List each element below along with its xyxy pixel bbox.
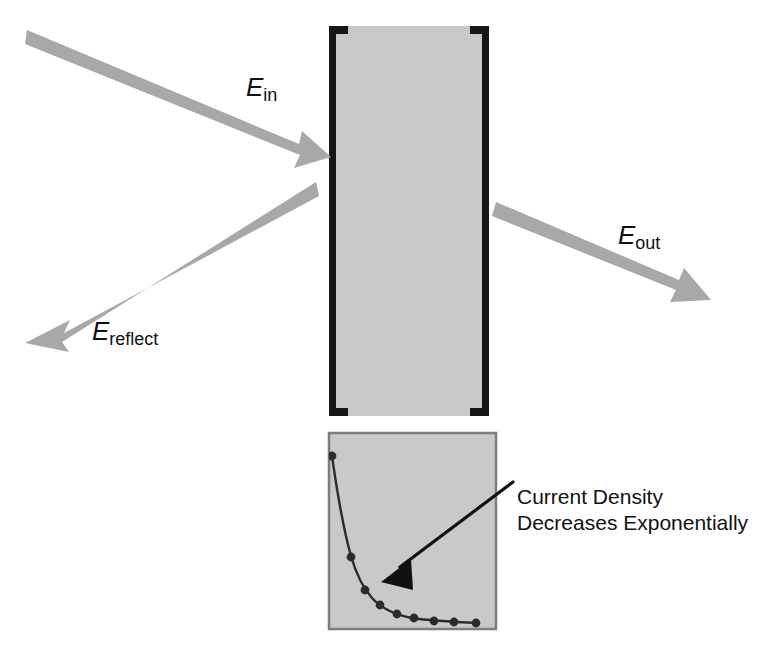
- main-slab-group: [329, 26, 489, 416]
- data-point: [347, 553, 356, 562]
- data-point: [450, 618, 459, 627]
- detail-box-fill: [329, 433, 496, 629]
- label-e-in-subscript: in: [263, 85, 277, 105]
- annotation-label: Current Density Decreases Exponentially: [517, 484, 761, 535]
- figure-canvas: Ein Ereflect Eout Current Density Decrea…: [0, 0, 769, 664]
- slab-left-wall: [329, 26, 336, 416]
- annotation-line-1: Current Density: [517, 484, 761, 510]
- data-point: [393, 610, 402, 619]
- data-point: [410, 614, 419, 623]
- data-point: [430, 617, 439, 626]
- main-slab-fill: [334, 26, 484, 416]
- label-e-reflect: Ereflect: [92, 318, 158, 348]
- label-e-out: Eout: [618, 222, 660, 252]
- label-e-out-symbol: E: [618, 220, 635, 250]
- slab-corner-top-right: [470, 26, 489, 34]
- data-point: [376, 601, 385, 610]
- slab-right-wall: [482, 26, 489, 416]
- data-point: [361, 586, 370, 595]
- label-e-in-symbol: E: [246, 72, 263, 102]
- label-e-reflect-subscript: reflect: [109, 329, 158, 349]
- arrow-e-reflect: [25, 182, 319, 352]
- arrow-e-out: [492, 202, 711, 302]
- label-e-out-subscript: out: [635, 233, 660, 253]
- annotation-line-2: Decreases Exponentially: [517, 510, 761, 536]
- label-e-reflect-symbol: E: [92, 316, 109, 346]
- arrow-e-in: [25, 30, 331, 168]
- detail-box-group: [328, 433, 496, 629]
- label-e-in: Ein: [246, 74, 277, 104]
- slab-corner-bottom-left: [329, 408, 348, 416]
- data-point: [472, 619, 481, 628]
- slab-corner-bottom-right: [470, 408, 489, 416]
- slab-corner-top-left: [329, 26, 348, 34]
